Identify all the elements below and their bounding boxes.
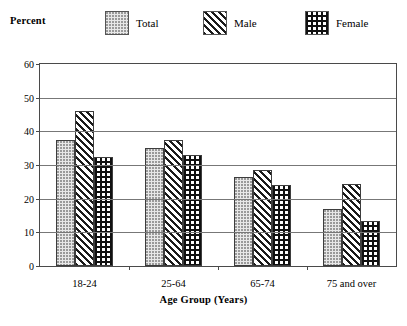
x-axis-tick: [307, 266, 308, 270]
bar-male-65-74: [253, 170, 272, 266]
y-axis-tick: [36, 266, 40, 267]
y-axis-tick-label: 50: [24, 92, 34, 103]
legend-label-total: Total: [136, 17, 158, 29]
legend-swatch-total-icon: [105, 11, 129, 35]
bar-total-65-74: [234, 177, 253, 266]
x-axis-title: Age Group (Years): [0, 294, 407, 305]
bar-male-75-and-over: [342, 184, 361, 266]
x-axis-tick: [218, 266, 219, 270]
y-axis-tick-label: 60: [24, 59, 34, 70]
y-axis-tick: [36, 64, 40, 65]
bar-female-65-74: [272, 185, 291, 266]
x-axis-tick-label: 75 and over: [327, 278, 377, 289]
legend-item-male: Male: [203, 10, 257, 36]
x-axis-tick-label: 65-74: [250, 278, 275, 289]
x-axis-tick: [129, 266, 130, 270]
legend-item-total: Total: [105, 10, 158, 36]
bar-female-75-and-over: [361, 221, 380, 266]
legend-swatch-female-icon: [305, 11, 329, 35]
bar-male-25-64: [164, 140, 183, 266]
y-axis-tick: [36, 98, 40, 99]
chart-header: Percent Total Male Female: [0, 0, 407, 48]
bar-female-18-24: [94, 157, 113, 266]
gridline: [40, 165, 396, 166]
y-axis-tick-label: 10: [24, 227, 34, 238]
bar-total-75-and-over: [323, 209, 342, 266]
y-axis-tick: [36, 232, 40, 233]
y-axis-unit-label: Percent: [10, 15, 46, 26]
bar-chart: Percent Total Male Female 01020304050601…: [0, 0, 407, 326]
bar-male-18-24: [75, 111, 94, 266]
y-axis-tick-label: 40: [24, 126, 34, 137]
bar-total-18-24: [56, 140, 75, 266]
gridline: [40, 98, 396, 99]
y-axis-tick-label: 30: [24, 160, 34, 171]
gridline: [40, 199, 396, 200]
legend-item-female: Female: [305, 10, 368, 36]
legend-label-female: Female: [336, 17, 368, 29]
y-axis-tick-label: 0: [29, 261, 34, 272]
x-axis-tick-label: 25-64: [161, 278, 186, 289]
y-axis-tick: [36, 199, 40, 200]
bar-female-25-64: [183, 155, 202, 266]
chart-legend: Total Male Female: [105, 10, 405, 40]
legend-label-male: Male: [234, 17, 257, 29]
legend-swatch-male-icon: [203, 11, 227, 35]
y-axis-tick: [36, 165, 40, 166]
plot-area: 010203040506018-2425-6465-7475 and over: [39, 63, 397, 267]
gridline: [40, 232, 396, 233]
x-axis-tick-label: 18-24: [72, 278, 97, 289]
y-axis-tick-label: 20: [24, 193, 34, 204]
gridline: [40, 131, 396, 132]
y-axis-tick: [36, 131, 40, 132]
